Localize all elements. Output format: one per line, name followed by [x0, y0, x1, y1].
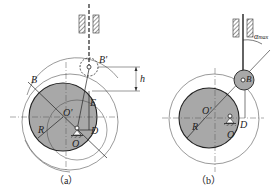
caption-b: （b）	[196, 176, 221, 186]
label-B-prime-a: B'	[99, 55, 107, 65]
label-E-a: E	[90, 98, 96, 108]
label-O-prime-a: O'	[63, 108, 72, 118]
label-R-a: R	[38, 125, 44, 135]
label-B-a: B	[31, 75, 37, 85]
label-O-a: O	[72, 139, 79, 149]
label-alpha-max: αmax	[254, 33, 268, 41]
label-D-b: D	[240, 120, 247, 130]
cam-mechanism-diagram	[0, 0, 278, 191]
label-B-b: B	[246, 75, 252, 84]
label-D-a: D	[91, 126, 98, 136]
label-O-b: O	[227, 130, 234, 140]
caption-a: （a）	[54, 176, 78, 186]
label-O-prime-b: O'	[202, 106, 211, 116]
label-R-b: R	[192, 122, 198, 132]
label-h: h	[140, 74, 145, 84]
